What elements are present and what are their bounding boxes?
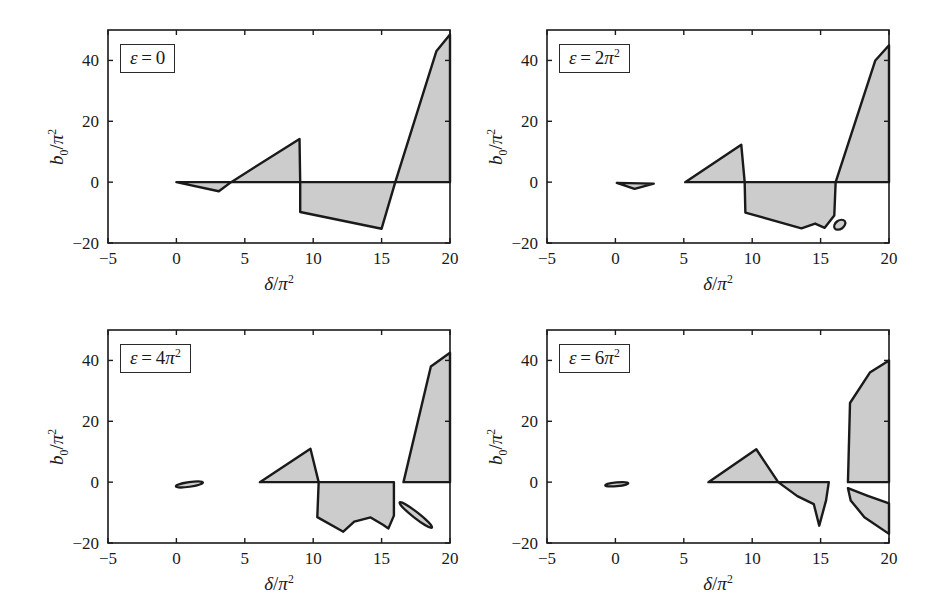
- region-third-tongue-upper: [403, 353, 450, 482]
- svg-text:5: 5: [241, 249, 250, 268]
- svg-text:0: 0: [172, 249, 181, 268]
- panel-eps-2pi2-xlabel: δ/π2: [547, 273, 889, 295]
- region-first-tongue-lower: [176, 182, 231, 191]
- region-second-tongue-lower: [317, 482, 394, 532]
- svg-text:40: 40: [521, 51, 538, 70]
- svg-text:15: 15: [373, 549, 390, 568]
- panel-eps-2pi2-epsilon-label: ε = 2π2: [559, 44, 630, 73]
- panel-eps-4pi2-epsilon-label: ε = 4π2: [120, 344, 191, 373]
- x-tick-labels: −505101520: [99, 549, 459, 568]
- panel-eps-4pi2-ylabel: b0/π2: [46, 428, 72, 464]
- y-tick-labels: −2002040: [72, 351, 99, 553]
- region-second-tongue-lower: [778, 482, 829, 526]
- svg-text:0: 0: [530, 173, 539, 192]
- region-origin-sliver: [617, 183, 654, 189]
- y-ticks: [108, 60, 450, 243]
- y-tick-labels: −2002040: [511, 351, 538, 553]
- svg-text:5: 5: [680, 249, 689, 268]
- svg-text:15: 15: [812, 549, 829, 568]
- panel-eps-0-epsilon-label: ε = 0: [120, 44, 175, 73]
- region-detached-ellipse: [832, 218, 847, 232]
- region-second-tongue-lower: [300, 182, 395, 229]
- svg-text:5: 5: [241, 549, 250, 568]
- svg-text:−5: −5: [99, 249, 117, 268]
- panel-eps-2pi2-ylabel: b0/π2: [485, 128, 511, 164]
- svg-text:20: 20: [82, 412, 99, 431]
- svg-text:10: 10: [305, 549, 322, 568]
- region-origin-sliver: [605, 481, 629, 487]
- region-third-tongue-upper: [848, 360, 889, 482]
- region-third-tongue-upper: [836, 45, 889, 182]
- svg-text:20: 20: [521, 112, 538, 131]
- y-ticks: [108, 360, 450, 543]
- panel-eps-0-ylabel: b0/π2: [46, 128, 72, 164]
- svg-text:10: 10: [305, 249, 322, 268]
- svg-text:0: 0: [530, 473, 539, 492]
- region-second-tongue-upper: [231, 139, 300, 182]
- svg-text:5: 5: [680, 549, 689, 568]
- svg-text:15: 15: [373, 249, 390, 268]
- y-ticks: [547, 360, 889, 543]
- svg-text:−20: −20: [511, 534, 538, 553]
- svg-text:0: 0: [91, 473, 100, 492]
- svg-text:10: 10: [744, 549, 761, 568]
- region-second-tongue-upper: [708, 449, 778, 482]
- svg-text:−20: −20: [72, 234, 99, 253]
- panel-eps-0-xlabel: δ/π2: [108, 273, 450, 295]
- figure-container: −505101520−2002040ε = 0δ/π2b0/π2−5051015…: [0, 0, 929, 607]
- panel-eps-4pi2-xlabel: δ/π2: [108, 573, 450, 595]
- svg-text:0: 0: [91, 173, 100, 192]
- x-tick-labels: −505101520: [99, 249, 459, 268]
- panel-eps-6pi2-epsilon-label: ε = 6π2: [559, 344, 630, 373]
- panel-eps-6pi2-ylabel: b0/π2: [485, 428, 511, 464]
- region-second-tongue-upper: [260, 449, 319, 482]
- svg-text:20: 20: [82, 112, 99, 131]
- region-second-tongue-upper: [685, 145, 745, 182]
- svg-text:−5: −5: [538, 249, 556, 268]
- svg-text:20: 20: [442, 549, 459, 568]
- x-tick-labels: −505101520: [538, 249, 898, 268]
- panel-eps-6pi2-svg: −505101520−2002040: [0, 0, 929, 607]
- region-detached-lens: [398, 500, 434, 530]
- svg-text:40: 40: [82, 351, 99, 370]
- svg-text:−5: −5: [99, 549, 117, 568]
- panel-eps-4pi2-regions: [176, 353, 450, 532]
- y-tick-labels: −2002040: [511, 51, 538, 253]
- panel-eps-6pi2-xlabel: δ/π2: [547, 573, 889, 595]
- svg-text:20: 20: [881, 249, 898, 268]
- svg-text:20: 20: [881, 549, 898, 568]
- panel-eps-0-regions: [176, 35, 450, 229]
- svg-text:−20: −20: [511, 234, 538, 253]
- svg-text:−20: −20: [72, 534, 99, 553]
- panel-eps-6pi2-regions: [605, 360, 889, 533]
- svg-text:0: 0: [172, 549, 181, 568]
- region-second-tongue-lower: [745, 182, 836, 228]
- svg-text:0: 0: [611, 249, 620, 268]
- svg-text:40: 40: [82, 51, 99, 70]
- svg-text:20: 20: [521, 412, 538, 431]
- x-tick-labels: −505101520: [538, 549, 898, 568]
- region-third-tongue-lower: [848, 488, 889, 534]
- y-ticks: [547, 60, 889, 243]
- svg-text:10: 10: [744, 249, 761, 268]
- svg-text:20: 20: [442, 249, 459, 268]
- region-third-tongue-upper: [395, 35, 450, 183]
- svg-text:0: 0: [611, 549, 620, 568]
- panel-eps-2pi2-svg: −505101520−2002040: [0, 0, 929, 607]
- panel-eps-2pi2-regions: [617, 45, 889, 232]
- y-tick-labels: −2002040: [72, 51, 99, 253]
- panel-eps-0-svg: −505101520−2002040: [0, 0, 929, 607]
- svg-text:15: 15: [812, 249, 829, 268]
- region-origin-sliver: [176, 480, 204, 489]
- svg-text:40: 40: [521, 351, 538, 370]
- svg-text:−5: −5: [538, 549, 556, 568]
- panel-eps-4pi2-svg: −505101520−2002040: [0, 0, 929, 607]
